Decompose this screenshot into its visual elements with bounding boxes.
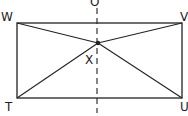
line-u-x: [98, 43, 182, 98]
rectangle-outline: [17, 23, 182, 98]
label-w: W: [1, 10, 13, 24]
rectangle-diagram: W V T U X O: [0, 0, 188, 116]
line-t-x: [17, 43, 98, 98]
point-x: [96, 41, 100, 45]
label-u: U: [180, 100, 188, 114]
line-v-x: [98, 23, 182, 43]
label-t: T: [4, 100, 13, 114]
label-v: V: [180, 10, 188, 24]
label-x: X: [85, 53, 93, 67]
line-w-x: [17, 23, 98, 43]
label-o: O: [90, 0, 99, 9]
